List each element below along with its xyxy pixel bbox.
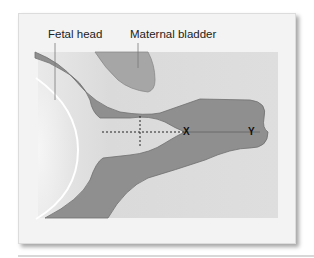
marker-x: X: [183, 126, 190, 137]
maternal-bladder-label: Maternal bladder: [130, 28, 216, 40]
separator-rule: [18, 255, 314, 257]
marker-y: Y: [248, 126, 255, 137]
fetal-head-label: Fetal head: [48, 28, 102, 40]
